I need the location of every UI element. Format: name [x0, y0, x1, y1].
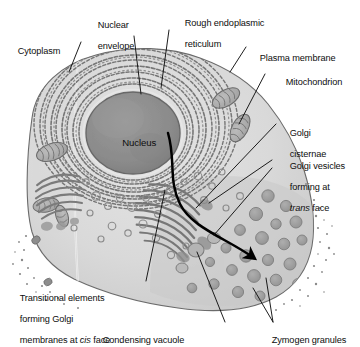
- zymogen-granule: [256, 232, 269, 245]
- zymogen-granule: [262, 254, 273, 265]
- zymogen-granule: [262, 190, 274, 202]
- zymogen-granule: [227, 265, 238, 276]
- label-cytoplasm: Cytoplasm: [8, 35, 60, 67]
- zymogen-granule: [278, 238, 290, 250]
- zymogen-granule: [293, 279, 304, 290]
- zymogen-granule: [248, 270, 261, 283]
- zymogen-granule: [187, 283, 197, 293]
- zymogen-granule: [235, 225, 246, 236]
- zymogen-granule: [221, 243, 231, 253]
- label-condensing-vacuole: Condensing vacuole: [93, 324, 184, 347]
- zymogen-granule: [297, 235, 307, 245]
- label-mitochondrion: Mitochondrion: [276, 66, 342, 98]
- zymogen-granule: [232, 286, 243, 297]
- condensing-vacuole: [176, 263, 188, 273]
- label-nucleus: Nucleus: [112, 127, 156, 159]
- zymogen-granule: [284, 258, 296, 270]
- label-zymogen-granules: Zymogen granules: [262, 324, 346, 347]
- zymogen-granule: [249, 207, 262, 220]
- zymogen-granule: [205, 257, 214, 266]
- condensing-vacuole: [188, 243, 204, 257]
- cell-diagram-figure: Cytoplasm Nuclear envelope Rough endopla…: [0, 0, 360, 347]
- label-golgi-vesicles: Golgi vesicles forming at trans face: [280, 150, 345, 224]
- zymogen-granule: [270, 274, 282, 286]
- label-nuclear-envelope: Nuclear envelope: [88, 9, 134, 62]
- zymogen-granule: [209, 279, 219, 289]
